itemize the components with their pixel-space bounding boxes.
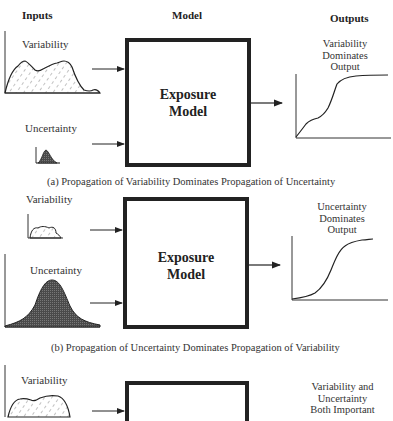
- output-label: Variability and Uncertainty Both Importa…: [295, 381, 390, 416]
- exposure-model-box: [125, 381, 249, 421]
- output-label-line1: Variability and: [295, 381, 390, 393]
- output-label-line2: Uncertainty: [295, 393, 390, 405]
- arrow-variability-to-model: [0, 0, 130, 417]
- output-label-line3: Both Important: [295, 404, 390, 416]
